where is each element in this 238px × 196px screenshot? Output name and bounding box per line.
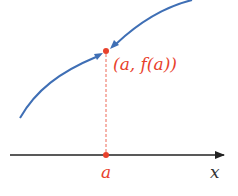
curve-right	[116, 0, 192, 44]
point-a-axis	[103, 152, 109, 158]
arrow-left-icon	[94, 53, 103, 60]
function-limit-diagram: (a, f(a)) a x	[0, 0, 238, 196]
point-label: (a, f(a))	[113, 54, 177, 74]
point-a-fa	[103, 48, 109, 54]
tick-label-a: a	[101, 162, 111, 182]
curve-left	[20, 57, 96, 118]
axis-label-x: x	[210, 162, 220, 182]
